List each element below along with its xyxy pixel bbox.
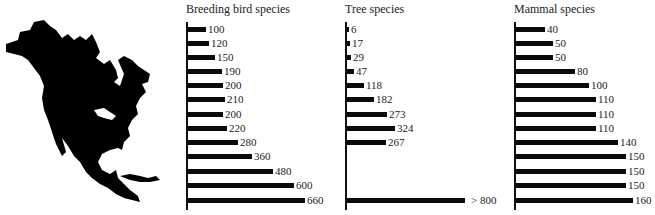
mammal-bar-value: 50 xyxy=(555,38,566,49)
tree-bar xyxy=(347,112,387,117)
mammal-bar-row: 100 xyxy=(516,82,608,88)
bird-bar xyxy=(188,126,227,131)
tree-chart-title: Tree species xyxy=(345,2,404,17)
bird-bar-value: 210 xyxy=(227,94,244,105)
mammal-bar xyxy=(516,198,633,203)
bird-bar xyxy=(188,140,238,145)
tree-bar-value: > 800 xyxy=(471,195,496,206)
mammal-bar-row: 110 xyxy=(516,125,614,131)
bird-bar-row: 220 xyxy=(188,125,246,131)
bird-bar xyxy=(188,183,294,188)
bird-bar-value: 150 xyxy=(217,52,234,63)
bird-bar-row: 100 xyxy=(188,26,225,32)
mammal-bar xyxy=(516,154,626,159)
tree-bar-row: 267 xyxy=(347,139,405,145)
tree-bar xyxy=(347,27,349,32)
tree-bar-row: 182 xyxy=(347,96,393,102)
bird-bar-value: 480 xyxy=(275,166,292,177)
bird-bar xyxy=(188,27,206,32)
tree-bar-row: 17 xyxy=(347,40,363,46)
mammal-bar-value: 110 xyxy=(598,94,614,105)
bird-bar-value: 220 xyxy=(229,123,246,134)
mammal-bar xyxy=(516,41,553,46)
bird-bar-row: 200 xyxy=(188,82,242,88)
tree-bar-row: 47 xyxy=(347,68,367,74)
mammal-bar-row: 150 xyxy=(516,182,645,188)
bird-bar xyxy=(188,97,225,102)
mammal-bar-value: 150 xyxy=(628,151,645,162)
bird-bar-row: 200 xyxy=(188,111,242,117)
mammal-bar-row: 80 xyxy=(516,68,588,74)
tree-bar-value: 118 xyxy=(366,80,382,91)
bird-species-panel: Breeding bird species 100120150190200210… xyxy=(186,0,346,215)
tree-bar xyxy=(347,41,350,46)
mammal-bar-value: 160 xyxy=(635,195,652,206)
mammal-bar-value: 40 xyxy=(547,24,558,35)
bird-bar-value: 100 xyxy=(208,24,225,35)
tree-bar xyxy=(347,198,465,203)
bird-bar-row: 360 xyxy=(188,153,271,159)
tree-bar-value: 17 xyxy=(352,38,363,49)
bird-chart-title: Breeding bird species xyxy=(186,2,290,17)
tree-species-panel: Tree species 6172947118182273324267> 800 xyxy=(345,0,505,215)
tree-bar xyxy=(347,83,364,88)
tree-bar-value: 182 xyxy=(376,94,393,105)
mammal-bar-value: 100 xyxy=(591,80,608,91)
mammal-bar-row: 40 xyxy=(516,26,558,32)
tree-bar-row: 29 xyxy=(347,54,364,60)
bird-bar-value: 600 xyxy=(296,180,313,191)
tree-bar-value: 6 xyxy=(351,24,357,35)
tree-bar-row: 118 xyxy=(347,82,382,88)
bird-bar-row: 120 xyxy=(188,40,228,46)
mammal-bar-row: 50 xyxy=(516,40,566,46)
mammal-bar-value: 140 xyxy=(620,137,637,148)
tree-bar-row: > 800 xyxy=(347,197,496,203)
mammal-bar-row: 150 xyxy=(516,153,645,159)
bird-bar-value: 280 xyxy=(240,137,257,148)
bird-bar xyxy=(188,41,209,46)
tree-bar-value: 324 xyxy=(397,123,414,134)
bird-bar-row: 660 xyxy=(188,197,324,203)
mammal-bar-row: 110 xyxy=(516,111,614,117)
tree-bar-value: 267 xyxy=(388,137,405,148)
mammal-bar-value: 110 xyxy=(598,109,614,120)
bird-bar-value: 360 xyxy=(254,151,271,162)
bird-bar xyxy=(188,55,215,60)
mammal-bar-value: 150 xyxy=(628,166,645,177)
bird-bar-value: 660 xyxy=(307,195,324,206)
mammal-bar xyxy=(516,140,618,145)
bird-bar xyxy=(188,198,305,203)
tree-bar xyxy=(347,69,354,74)
mammal-bar xyxy=(516,27,545,32)
mammal-bar-row: 150 xyxy=(516,168,645,174)
bird-bar-row: 480 xyxy=(188,168,292,174)
mammal-bar-row: 110 xyxy=(516,96,614,102)
bird-bar xyxy=(188,169,273,174)
tree-bar xyxy=(347,55,351,60)
mammal-bar xyxy=(516,55,553,60)
bird-bar xyxy=(188,154,252,159)
north-america-map xyxy=(0,12,180,207)
mammal-bar-row: 50 xyxy=(516,54,566,60)
mammal-bar xyxy=(516,69,575,74)
bird-bar-value: 200 xyxy=(225,109,242,120)
mammal-bar-value: 110 xyxy=(598,123,614,134)
bird-bar-row: 280 xyxy=(188,139,257,145)
mammal-bar xyxy=(516,169,626,174)
bird-bar-row: 210 xyxy=(188,96,244,102)
mammal-bar xyxy=(516,83,589,88)
tree-bar-row: 324 xyxy=(347,125,414,131)
bird-bar-row: 150 xyxy=(188,54,234,60)
mammal-bar-row: 160 xyxy=(516,197,652,203)
tree-bar-value: 273 xyxy=(389,109,406,120)
mammal-bar xyxy=(516,126,596,131)
tree-bar-row: 6 xyxy=(347,26,357,32)
tree-bar-value: 47 xyxy=(356,66,367,77)
tree-bar-value: 29 xyxy=(353,52,364,63)
bird-bar-value: 120 xyxy=(211,38,228,49)
mammal-bar xyxy=(516,183,626,188)
mammal-species-panel: Mammal species 4050508010011011011014015… xyxy=(514,0,655,215)
mammal-bar-value: 150 xyxy=(628,180,645,191)
mammal-bar-row: 140 xyxy=(516,139,637,145)
bird-bar-value: 190 xyxy=(224,66,241,77)
